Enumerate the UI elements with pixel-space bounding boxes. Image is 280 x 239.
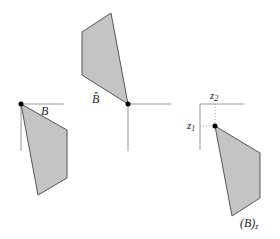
panel-set-b: B xyxy=(19,102,68,196)
set-operations-diagram: B B̂ z2 z1 (B)z xyxy=(0,0,280,239)
label-z1: z1 xyxy=(186,119,195,133)
origin-dot xyxy=(126,102,131,107)
translation-point-dot xyxy=(213,124,218,129)
origin-dot xyxy=(19,102,24,107)
label-b-hat: B̂ xyxy=(92,92,100,106)
translated-set-shape xyxy=(215,126,260,216)
panel-reflection-b-hat: B̂ xyxy=(82,13,171,151)
panel-translation-b-z: z2 z1 (B)z xyxy=(186,89,260,231)
label-z2: z2 xyxy=(209,89,218,103)
label-b-z: (B)z xyxy=(240,216,259,231)
reflected-set-shape xyxy=(82,13,128,104)
label-b: B xyxy=(41,104,49,118)
